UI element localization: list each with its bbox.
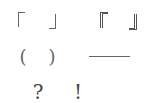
paren-close-mark: ): [48, 48, 55, 66]
corner-bracket-open-mark: [18, 12, 25, 27]
white-corner-bracket-open-mark: [100, 12, 108, 28]
exclamation-mark: !: [74, 82, 82, 102]
question-mark: ?: [33, 82, 44, 102]
white-corner-bracket-close-mark: [129, 14, 137, 30]
corner-bracket-close-mark: [49, 14, 56, 29]
dash-mark: [89, 56, 130, 57]
paren-open-mark: (: [19, 48, 26, 66]
